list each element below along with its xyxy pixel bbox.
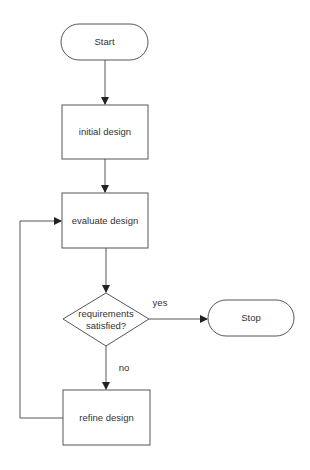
initial-design-label: initial design: [62, 126, 148, 137]
decision-label-line1: requirements: [63, 308, 149, 319]
edge-loop: [20, 221, 63, 418]
start-label: Start: [61, 36, 148, 47]
yes-label: yes: [150, 297, 170, 308]
evaluate-design-label: evaluate design: [62, 215, 148, 226]
refine-design-label: refine design: [63, 412, 150, 423]
flowchart-canvas: [0, 0, 310, 470]
no-label: no: [114, 362, 134, 373]
stop-label: Stop: [208, 312, 294, 323]
decision-label-line2: satisfied?: [63, 320, 149, 331]
